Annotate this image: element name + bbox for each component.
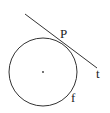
circle-center-dot xyxy=(42,71,44,73)
circle-label-f: f xyxy=(71,90,76,105)
tangent-diagram: P t f xyxy=(0,0,110,113)
tangent-line-t xyxy=(25,14,97,68)
point-label-p: P xyxy=(60,26,67,41)
tangent-label-t: t xyxy=(96,66,100,81)
